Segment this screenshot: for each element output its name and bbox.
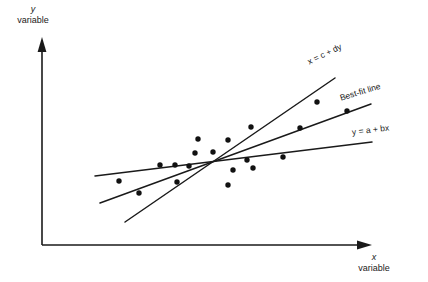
best-fit-line xyxy=(100,104,371,203)
scatter-point xyxy=(225,182,230,187)
scatter-point xyxy=(225,137,230,142)
scatter-point xyxy=(174,179,179,184)
scatter-point xyxy=(136,190,141,195)
scatter-point xyxy=(297,125,302,130)
y-axis xyxy=(38,37,47,245)
scatter-point xyxy=(344,108,349,113)
scatter-point xyxy=(244,157,249,162)
y-axis-label: y variable xyxy=(2,4,64,25)
scatter-point xyxy=(248,124,253,129)
y-axis-symbol: y xyxy=(31,4,36,14)
x-axis-label: x variable xyxy=(343,252,405,273)
x-axis-arrowhead xyxy=(357,241,372,250)
scatter-point xyxy=(280,154,285,159)
scatter-point xyxy=(230,167,235,172)
scatter-point xyxy=(210,149,215,154)
regression-lines-scatter-svg xyxy=(0,0,428,282)
scatter-point xyxy=(314,99,319,104)
scatter-plot-figure: y variable x variable x = c + dy Best-fi… xyxy=(0,0,428,282)
scatter-point xyxy=(157,162,162,167)
scatter-point xyxy=(250,165,255,170)
scatter-point xyxy=(172,162,177,167)
scatter-point xyxy=(116,178,121,183)
y-axis-arrowhead xyxy=(38,37,47,52)
scatter-point xyxy=(195,136,200,141)
x-axis-word: variable xyxy=(358,263,390,273)
x-axis-symbol: x xyxy=(372,252,377,262)
scatter-point xyxy=(192,150,197,155)
scatter-point xyxy=(186,163,191,168)
y-axis-word: variable xyxy=(17,15,49,25)
x-axis xyxy=(42,241,372,250)
